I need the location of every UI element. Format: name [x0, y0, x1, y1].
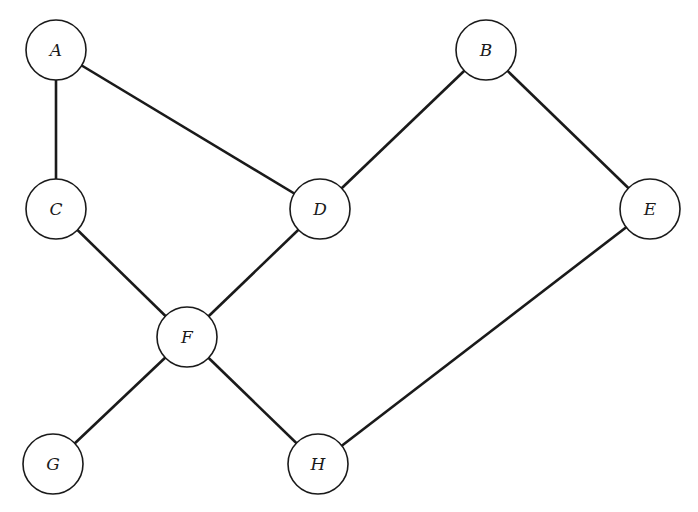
node-label: B — [479, 40, 493, 60]
node-label: F — [180, 327, 194, 347]
node-label: G — [46, 454, 60, 474]
node-b: B — [456, 20, 516, 80]
edge-e-h — [318, 209, 650, 464]
node-d: D — [290, 179, 350, 239]
edges-layer — [53, 50, 650, 464]
graph-diagram: ABCDEFGH — [0, 0, 698, 512]
nodes-layer: ABCDEFGH — [23, 20, 680, 494]
edge-b-d — [320, 50, 486, 209]
edge-b-e — [486, 50, 650, 209]
node-a: A — [26, 20, 86, 80]
node-label: E — [643, 199, 657, 219]
node-c: C — [26, 179, 86, 239]
node-g: G — [23, 434, 83, 494]
node-label: C — [49, 199, 62, 219]
node-f: F — [157, 307, 217, 367]
node-label: H — [310, 454, 327, 474]
node-h: H — [288, 434, 348, 494]
node-label: A — [48, 40, 62, 60]
node-e: E — [620, 179, 680, 239]
node-label: D — [312, 199, 327, 219]
edge-a-d — [56, 50, 320, 209]
